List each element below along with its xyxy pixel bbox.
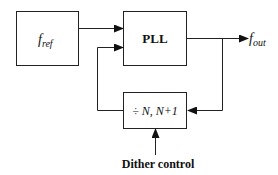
divider-label: ÷ N, N+1 — [132, 104, 178, 118]
dither-control-label: Dither control — [122, 157, 195, 171]
fout-label-sub: out — [253, 37, 266, 48]
pll-block: PLL — [124, 12, 187, 66]
divider-block: ÷ N, N+1 — [124, 93, 187, 129]
fref-label-sub: ref — [42, 38, 54, 49]
feedback-branch-line — [188, 39, 223, 111]
pll-label: PLL — [142, 31, 168, 46]
fref-block: fref — [17, 12, 79, 66]
divider-to-pll-line — [98, 48, 124, 111]
fout-label: fout — [249, 31, 266, 48]
pll-dither-diagram: fref PLL ÷ N, N+1 fout Dither control — [0, 0, 278, 175]
